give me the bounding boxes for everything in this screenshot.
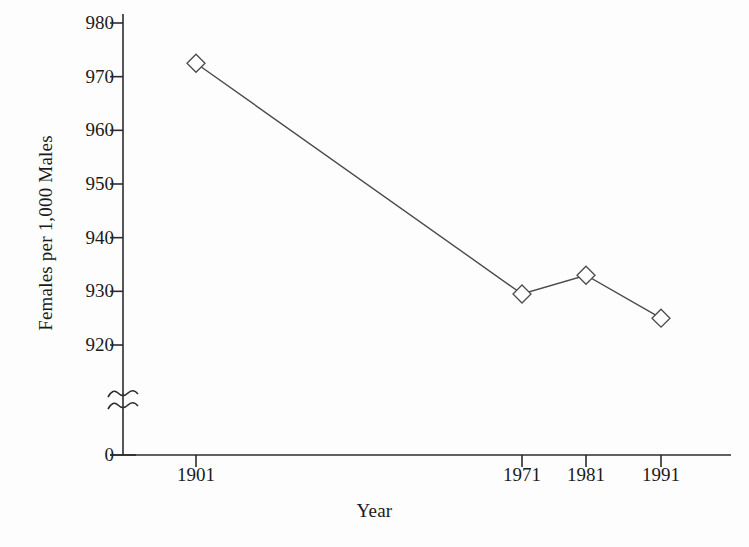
diamond-marker-icon (652, 309, 670, 327)
line-chart: Females per 1,000 Males Year 98097096095… (0, 0, 749, 547)
diamond-marker-icon (577, 266, 595, 284)
data-point-markers (187, 54, 670, 327)
diamond-marker-icon (187, 54, 205, 72)
data-series-line (196, 63, 661, 318)
plot-area (0, 0, 749, 547)
diamond-marker-icon (513, 285, 531, 303)
x-tick-marks (196, 455, 661, 467)
